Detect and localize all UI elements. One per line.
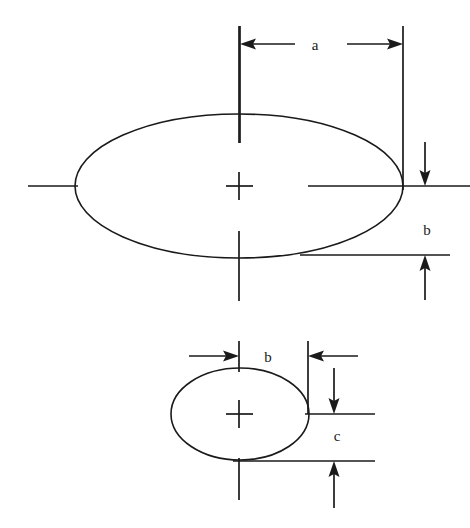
dimension-b-upper-group: b [420, 142, 431, 300]
dimension-label-b-lower: b [264, 349, 272, 365]
large-ellipse-center-cross-icon [226, 172, 253, 200]
dimension-a-group: a [240, 26, 403, 190]
technical-diagram-canvas: a b [0, 0, 470, 528]
dimension-label-b-upper: b [423, 222, 431, 238]
dimension-c-group: c [329, 368, 341, 508]
small-ellipse-center-cross-icon [226, 400, 253, 428]
dimension-label-c: c [334, 428, 341, 444]
dimension-label-a: a [312, 37, 319, 53]
small-ellipse-group [171, 341, 375, 500]
dimension-drawing: a b [0, 0, 470, 528]
